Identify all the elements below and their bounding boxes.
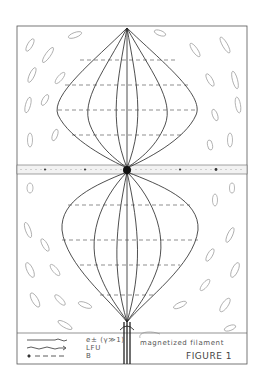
legend-label-lfu: LFU xyxy=(86,344,101,352)
filament-annotation: magnetized filament xyxy=(140,339,224,347)
legend-solid-line xyxy=(27,339,67,341)
figure-title: FIGURE 1 xyxy=(186,351,232,361)
equatorial-band xyxy=(17,165,247,174)
plasma-blobs xyxy=(23,29,242,333)
lower-lobe xyxy=(62,172,198,322)
legend-label-particles: e± (γ≫1) xyxy=(86,336,125,344)
legend-symbols xyxy=(27,339,67,357)
central-knot xyxy=(123,166,131,174)
upper-lobe xyxy=(57,28,197,168)
filament-stem xyxy=(124,322,130,364)
legend-particles-main: e± xyxy=(86,336,97,344)
legend-wavy-arrow xyxy=(27,347,65,349)
figure-drawing xyxy=(0,0,265,389)
legend-particles-sub: (γ≫1) xyxy=(100,336,124,344)
legend-label-field: B xyxy=(86,352,91,360)
